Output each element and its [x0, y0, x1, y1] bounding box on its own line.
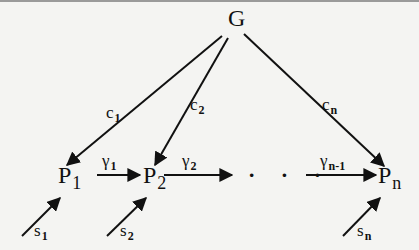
diagram-canvas: G P1 P2 Pn · · · c1 c2 cn γ1 γ2 γn-1 s1 …: [0, 0, 419, 250]
label-gamma1-sub: 1: [111, 159, 117, 173]
label-s1-sub: 1: [42, 229, 48, 243]
label-c2-sub: 2: [199, 103, 205, 117]
label-c1: c1: [106, 104, 121, 124]
node-p1: P1: [58, 163, 81, 192]
label-s2-sub: 2: [128, 229, 134, 243]
label-sn-main: s: [357, 221, 364, 240]
label-gamma1-main: γ: [102, 151, 110, 170]
node-pn: Pn: [378, 163, 401, 192]
label-c1-sub: 1: [115, 111, 121, 125]
label-gamma2-sub: 2: [191, 159, 197, 173]
label-s2-main: s: [120, 221, 127, 240]
edges-layer: [0, 0, 419, 250]
node-p1-sub: 1: [72, 173, 81, 193]
node-p2: P2: [143, 163, 166, 192]
node-pn-sub: n: [392, 173, 401, 193]
label-s2: s2: [120, 222, 134, 242]
node-p1-label: P: [58, 162, 71, 188]
label-s1: s1: [34, 222, 48, 242]
label-gamma1: γ1: [102, 152, 117, 172]
label-cn-sub: n: [331, 103, 338, 117]
label-c2: c2: [190, 96, 205, 116]
node-p2-sub: 2: [157, 173, 166, 193]
ellipsis: · · ·: [248, 162, 331, 188]
label-sn-sub: n: [365, 229, 372, 243]
label-gamma-n-1-main: γ: [320, 151, 328, 170]
label-sn: sn: [357, 222, 371, 242]
label-c2-main: c: [190, 95, 198, 114]
label-gamma-n-1-sub: n-1: [329, 159, 346, 173]
label-gamma-n-1: γn-1: [320, 152, 345, 172]
label-c1-main: c: [106, 103, 114, 122]
label-gamma2-main: γ: [182, 151, 190, 170]
edge-g-pn: [244, 34, 384, 166]
label-cn: cn: [322, 96, 337, 116]
node-pn-label: P: [378, 162, 391, 188]
label-gamma2: γ2: [182, 152, 197, 172]
node-p2-label: P: [143, 162, 156, 188]
label-s1-main: s: [34, 221, 41, 240]
node-g-label: G: [228, 5, 245, 31]
node-g: G: [228, 6, 245, 30]
label-cn-main: c: [322, 95, 330, 114]
